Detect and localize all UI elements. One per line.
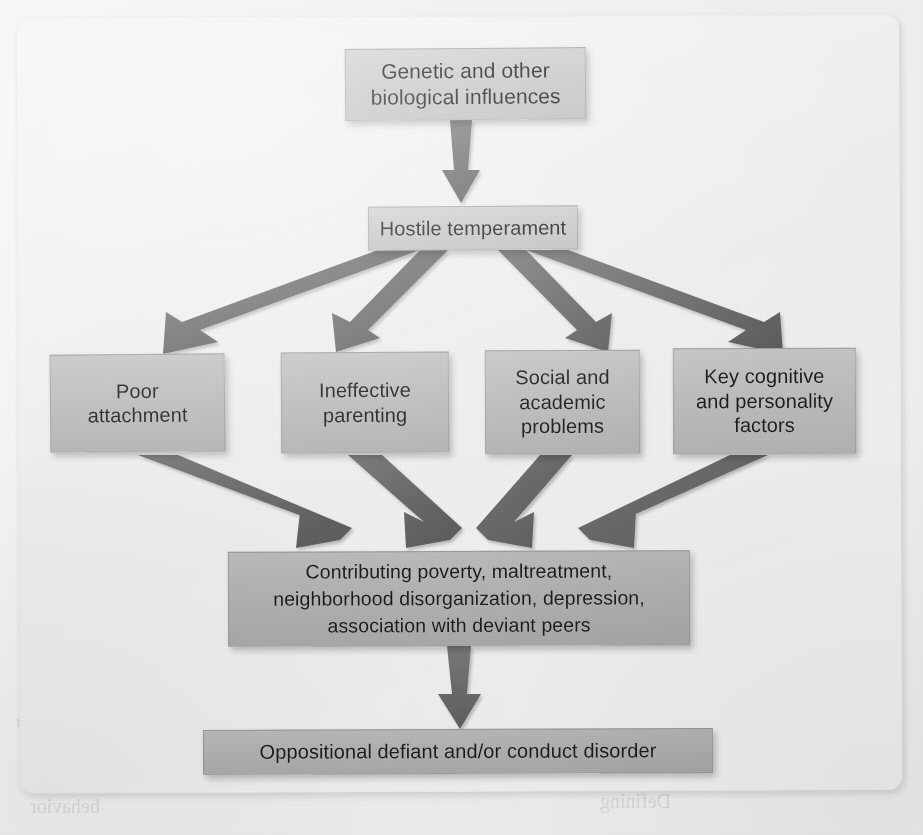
node-line: Genetic and other — [370, 58, 560, 85]
arrow-hostile-to-ineffective — [332, 250, 448, 352]
node-line: biological influences — [370, 83, 560, 110]
node-line: academic — [515, 390, 610, 415]
node-line: Hostile temperament — [380, 215, 567, 241]
node-line: and personality — [696, 389, 833, 414]
node-label: Ineffective parenting — [319, 378, 411, 427]
node-label: Key cognitive and personality factors — [696, 364, 833, 438]
node-line: Oppositional defiant and/or conduct diso… — [260, 739, 657, 765]
node-contributing-factors[interactable]: Contributing poverty, maltreatment, neig… — [228, 550, 690, 647]
node-label: Social and academic problems — [515, 365, 610, 439]
arrow-key-to-contributing — [578, 455, 768, 548]
arrow-hostile-to-key — [526, 250, 783, 354]
node-line: neighborhood disorganization, depression… — [273, 584, 645, 612]
arrow-social-to-contributing — [476, 455, 572, 548]
node-hostile-temperament[interactable]: Hostile temperament — [368, 205, 578, 250]
flowchart-stage: Genetic and other biological influences … — [0, 0, 923, 835]
node-poor-attachment[interactable]: Poor attachment — [50, 353, 226, 453]
arrow-poor-to-contributing — [138, 455, 352, 548]
node-line: Ineffective — [319, 378, 411, 403]
node-line: Social and — [515, 365, 610, 390]
node-label: Contributing poverty, maltreatment, neig… — [273, 557, 645, 639]
arrow-genetic-to-hostile — [442, 120, 480, 203]
node-line: association with deviant peers — [273, 611, 645, 639]
node-key-cognitive-personality-factors[interactable]: Key cognitive and personality factors — [673, 348, 856, 455]
arrow-hostile-to-poor — [163, 250, 420, 354]
arrow-ineffective-to-contributing — [348, 455, 462, 548]
node-oppositional-defiant-conduct-disorder[interactable]: Oppositional defiant and/or conduct diso… — [203, 728, 713, 775]
node-line: factors — [696, 413, 833, 438]
scanned-page: Genetic and otherbiological influencesHo… — [0, 0, 923, 835]
node-ineffective-parenting[interactable]: Ineffective parenting — [281, 352, 450, 454]
node-label: Oppositional defiant and/or conduct diso… — [260, 739, 657, 765]
node-genetic-biological-influences[interactable]: Genetic and other biological influences — [345, 47, 587, 121]
node-line: Poor — [87, 378, 187, 403]
node-line: Contributing poverty, maltreatment, — [273, 557, 645, 585]
node-line: attachment — [88, 403, 188, 428]
node-label: Genetic and other biological influences — [370, 58, 560, 111]
node-line: problems — [515, 414, 610, 439]
node-line: Key cognitive — [696, 364, 833, 389]
node-line: parenting — [319, 402, 411, 427]
arrow-hostile-to-social — [498, 250, 612, 352]
arrow-contributing-to-oppositional — [438, 646, 481, 729]
node-label: Hostile temperament — [380, 215, 567, 241]
node-label: Poor attachment — [87, 378, 187, 428]
node-social-academic-problems[interactable]: Social and academic problems — [485, 350, 640, 455]
